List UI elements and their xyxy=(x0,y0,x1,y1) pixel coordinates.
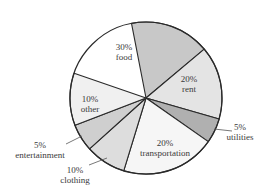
pie-chart: 30%food20%rent5%utilities20%transportati… xyxy=(0,0,270,191)
slice-label-food: food xyxy=(116,52,133,62)
slice-percent-other: 10% xyxy=(82,94,99,104)
slice-label-other: other xyxy=(81,104,100,114)
leader-line-entertainment xyxy=(66,136,82,144)
leader-line-utilities xyxy=(214,129,232,131)
slice-label-entertainment: entertainment xyxy=(15,150,65,160)
slice-label-rent: rent xyxy=(182,84,196,94)
slice-percent-entertainment: 5% xyxy=(34,140,47,150)
slice-percent-food: 30% xyxy=(116,42,133,52)
slice-label-clothing: clothing xyxy=(60,175,90,185)
slice-percent-transportation: 20% xyxy=(157,138,174,148)
slice-percent-rent: 20% xyxy=(181,74,198,84)
slice-percent-clothing: 10% xyxy=(67,165,84,175)
slice-percent-utilities: 5% xyxy=(234,122,247,132)
slice-label-transportation: transportation xyxy=(140,148,190,158)
slice-label-utilities: utilities xyxy=(227,132,254,142)
